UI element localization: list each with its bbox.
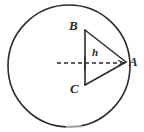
triangle-edge-ca bbox=[85, 62, 126, 85]
scan-artifact bbox=[66, 125, 82, 128]
vertex-label-b: B bbox=[69, 19, 78, 32]
geometry-figure: B C A h bbox=[0, 0, 144, 132]
vertex-label-a: A bbox=[129, 55, 138, 68]
vertex-label-c: C bbox=[70, 82, 79, 95]
dimension-label-h: h bbox=[92, 47, 98, 58]
